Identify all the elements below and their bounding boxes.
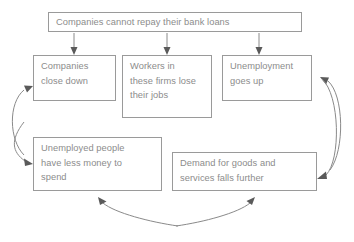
arrow-loop-bottom-to-demand: [176, 197, 255, 226]
node-companies-cannot-repay: Companies cannot repay their bank loans: [48, 12, 302, 32]
node-unemployed-less-money: Unemployed people have less money to spe…: [33, 137, 162, 191]
arrow-loop-left-up-to-close: [12, 86, 33, 156]
arrow-top-to-workers: [164, 33, 171, 55]
arrow-loop-left-down-to-money: [14, 122, 33, 166]
arrow-top-to-unemployment: [256, 33, 263, 55]
node-demand-falls-further: Demand for goods and services falls furt…: [172, 152, 317, 191]
node-companies-close-down: Companies close down: [33, 55, 116, 101]
node-workers-lose-jobs: Workers in these firms lose their jobs: [122, 55, 212, 118]
node-unemployment-goes-up: Unemployment goes up: [222, 55, 312, 101]
connector-layer: [0, 0, 354, 242]
arrow-loop-bottom-to-money: [98, 197, 178, 226]
arrow-loop-right-up-to-unemployment: [320, 77, 341, 170]
flowchart-diagram: Companies cannot repay their bank loans …: [0, 0, 354, 242]
arrow-top-to-close: [71, 33, 78, 55]
